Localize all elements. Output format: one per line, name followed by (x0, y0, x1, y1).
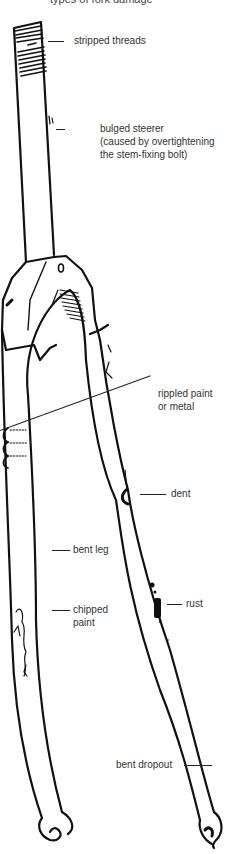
left-dropout (39, 812, 72, 840)
label-dent: dent (171, 488, 190, 501)
leader-dent (140, 494, 166, 495)
crown-hatch (60, 290, 85, 321)
label-bent-leg: bent leg (73, 544, 109, 557)
leader-bulged-steerer (56, 129, 65, 130)
chipped-paint-marks (14, 609, 27, 676)
leader-chipped-paint (52, 610, 70, 611)
leader-bent-leg (52, 550, 70, 551)
label-rust: rust (186, 598, 203, 611)
leader-rust (167, 604, 182, 605)
fork-crown (2, 256, 108, 395)
threads-icon (15, 26, 46, 76)
label-rippled-1: rippled paint (158, 388, 212, 401)
label-bent-dropout: bent dropout (116, 759, 172, 772)
label-rippled-2: or metal (158, 401, 194, 414)
label-bulged-steerer-2: (caused by overtightening (100, 136, 215, 149)
leader-bent-dropout (184, 765, 212, 766)
right-leg (86, 340, 214, 820)
label-bulged-steerer-3: the stem-fixing bolt) (100, 149, 187, 162)
steerer-tube (14, 22, 54, 262)
left-leg (2, 330, 62, 818)
label-bulged-steerer-1: bulged steerer (100, 123, 164, 136)
leader-stripped-threads (48, 41, 64, 42)
dent-mark (122, 490, 128, 504)
label-chipped-2: paint (73, 617, 95, 630)
right-dropout (200, 812, 222, 848)
label-stripped-threads: stripped threads (74, 35, 146, 48)
label-chipped-1: chipped (73, 604, 108, 617)
